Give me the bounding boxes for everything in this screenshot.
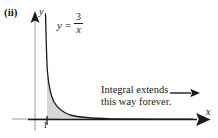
fraction-numerator: 3 [74,12,83,22]
fraction-denominator: x [74,25,82,35]
annotation-line-1: Integral extends [101,84,171,96]
y-axis-label: y [39,6,43,17]
part-label: (ii) [4,6,17,18]
integral-figure: (ii) y x y = 3 x Integral extends this w… [0,0,218,138]
equation-equals-sign: = [64,19,72,31]
x-tick-label-1: 1 [43,120,48,130]
x-axis-label: x [206,106,210,117]
curve-equation-label: y = 3 x [57,13,83,36]
figure-graphic [0,0,218,138]
annotation-line-2: this way forever. [101,96,171,108]
equation-fraction: 3 x [74,12,83,35]
integral-annotation: Integral extends this way forever. [101,84,171,107]
equation-lhs: y [57,19,62,31]
